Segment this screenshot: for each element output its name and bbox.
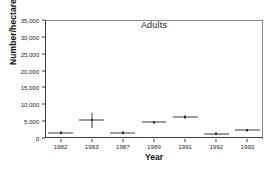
y-tick-label: 15,000: [21, 84, 39, 91]
y-tick-label: 5,000: [24, 118, 39, 125]
x-tick-label: 1989: [147, 143, 161, 150]
x-tick-label: 1982: [54, 143, 68, 150]
x-tick-label: 1983: [85, 143, 99, 150]
x-tick-mark: [91, 139, 92, 142]
y-tick-label: 0: [36, 135, 39, 142]
x-axis-label: Year: [45, 152, 263, 162]
x-tick-label: 1992: [209, 143, 223, 150]
data-point-center: [184, 116, 186, 118]
y-tick-label: 30,000: [21, 33, 39, 40]
y-axis-ticks: 05,00010,00015,00020,00025,00030,00035,0…: [0, 20, 45, 138]
y-tick-label: 10,000: [21, 101, 39, 108]
x-tick-mark: [216, 139, 217, 142]
x-tick-label: 1991: [178, 143, 192, 150]
x-tick-label: 1987: [116, 143, 130, 150]
data-point-center: [91, 119, 93, 121]
y-tick-label: 20,000: [21, 67, 39, 74]
data-point-center: [215, 133, 217, 135]
chart-figure: Adults 05,00010,00015,00020,00025,00030,…: [0, 0, 280, 170]
x-tick-mark: [60, 139, 61, 142]
x-tick-label: 1993: [241, 143, 255, 150]
data-point-center: [122, 132, 124, 134]
x-tick-mark: [154, 139, 155, 142]
data-point-center: [153, 121, 155, 123]
y-tick-label: 25,000: [21, 50, 39, 57]
data-series-layer: [45, 20, 263, 138]
x-tick-mark: [247, 139, 248, 142]
y-axis-label: Number/hectare: [8, 0, 18, 91]
x-tick-mark: [185, 139, 186, 142]
data-point-center: [60, 132, 62, 134]
data-point-center: [246, 129, 248, 131]
x-axis-ticks: 1982198319871989199119921993: [45, 139, 263, 153]
x-tick-mark: [122, 139, 123, 142]
y-tick-label: 35,000: [21, 17, 39, 24]
